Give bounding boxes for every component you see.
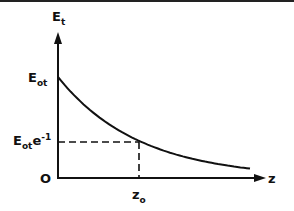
- y-tick-eot-sub: ot: [37, 78, 48, 88]
- x-axis-label: z: [268, 172, 276, 185]
- y-axis-label-main: E: [52, 9, 61, 24]
- y-tick-mid-sub: ot: [22, 141, 33, 151]
- x-axis-arrow-icon: [254, 174, 266, 182]
- y-axis-label: Et: [52, 10, 65, 27]
- y-tick-eot: Eot: [28, 71, 47, 88]
- origin-label: O: [40, 172, 51, 185]
- decay-curve: [58, 77, 250, 169]
- y-tick-eot-main: E: [28, 70, 37, 85]
- x-tick-zo-main: z: [132, 187, 140, 202]
- x-tick-zo-sub: o: [140, 195, 146, 205]
- x-tick-zo: zo: [132, 188, 146, 205]
- y-tick-eot-e-inverse: Eote-1: [13, 133, 51, 151]
- y-axis-arrow-icon: [54, 32, 62, 44]
- y-axis-label-sub: t: [61, 17, 65, 27]
- y-tick-mid-e: e: [32, 133, 41, 148]
- y-tick-mid-sup: -1: [41, 132, 51, 142]
- y-tick-mid-main: E: [13, 133, 22, 148]
